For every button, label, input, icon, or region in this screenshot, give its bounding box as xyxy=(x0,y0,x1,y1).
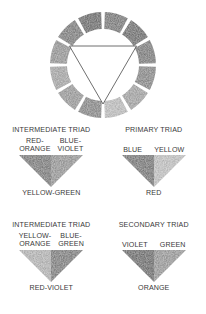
triad-bottom-label: ORANGE xyxy=(138,284,169,292)
triad-top-labels: VIOLET GREEN xyxy=(122,232,186,249)
triad-top-label-right: BLUE- VIOLET xyxy=(58,137,84,154)
triad-top-labels: YELLOW- ORANGE BLUE- GREEN xyxy=(19,232,84,249)
triangle-right-half xyxy=(154,155,186,187)
triad-triangle xyxy=(19,155,83,187)
color-theory-diagram-page: INTERMEDIATE TRIAD RED- ORANGE BLUE- VIO… xyxy=(0,0,205,314)
triad-heading: SECONDARY TRIAD xyxy=(119,221,189,230)
triad-top-label-right: BLUE- GREEN xyxy=(58,232,84,249)
triad-top-label-left: RED- ORANGE xyxy=(19,137,50,154)
triad-top-labels: RED- ORANGE BLUE- VIOLET xyxy=(19,137,83,154)
triad-bottom-label: RED xyxy=(146,189,161,197)
triad-top-label-right: GREEN xyxy=(160,241,186,249)
wheel-segment-10 xyxy=(58,20,84,46)
triad-bottom-label: YELLOW-GREEN xyxy=(22,189,80,197)
triad-panel-intermediate-2: INTERMEDIATE TRIAD YELLOW- ORANGE BLUE- … xyxy=(0,219,103,314)
triangle-left-half xyxy=(122,250,154,282)
triad-panel-secondary: SECONDARY TRIAD VIOLET GREEN ORANGE xyxy=(103,219,206,314)
wheel-segment-5 xyxy=(104,97,128,118)
triangle-right-half xyxy=(154,250,186,282)
wheel-segment-11 xyxy=(78,12,102,33)
color-wheel-svg xyxy=(43,8,163,122)
triad-bottom-label: RED-VIOLET xyxy=(29,284,73,292)
wheel-segment-7 xyxy=(58,84,84,110)
wheel-segment-12 xyxy=(104,12,128,33)
triangle-left-half xyxy=(19,250,51,282)
triad-top-label-left: YELLOW- ORANGE xyxy=(19,232,52,249)
triad-top-label-left: BLUE xyxy=(123,146,142,154)
triad-top-label-right: YELLOW xyxy=(154,146,184,154)
wheel-segment-9 xyxy=(50,40,71,64)
triad-panel-grid: INTERMEDIATE TRIAD RED- ORANGE BLUE- VIO… xyxy=(0,124,205,314)
triad-top-labels: BLUE YELLOW xyxy=(123,137,184,154)
wheel-segment-1 xyxy=(122,20,148,46)
triad-heading: INTERMEDIATE TRIAD xyxy=(12,221,90,230)
wheel-segment-8 xyxy=(50,66,71,90)
color-wheel-segments xyxy=(50,12,156,118)
triangle-right-half xyxy=(51,250,83,282)
triad-heading: INTERMEDIATE TRIAD xyxy=(12,126,90,135)
triad-panel-primary: PRIMARY TRIAD BLUE YELLOW RED xyxy=(103,124,206,219)
triad-panel-intermediate-1: INTERMEDIATE TRIAD RED- ORANGE BLUE- VIO… xyxy=(0,124,103,219)
wheel-segment-6 xyxy=(78,97,102,118)
triad-triangle xyxy=(19,250,83,282)
triad-heading: PRIMARY TRIAD xyxy=(125,126,182,135)
triad-top-label-left: VIOLET xyxy=(122,241,148,249)
wheel-segment-3 xyxy=(134,66,155,90)
wheel-segment-2 xyxy=(134,40,155,64)
color-wheel-figure xyxy=(0,8,205,122)
wheel-segment-4 xyxy=(122,84,148,110)
triangle-right-half xyxy=(51,155,83,187)
triangle-left-half xyxy=(19,155,51,187)
triad-triangle xyxy=(122,155,186,187)
triad-triangle xyxy=(122,250,186,282)
triangle-left-half xyxy=(122,155,154,187)
